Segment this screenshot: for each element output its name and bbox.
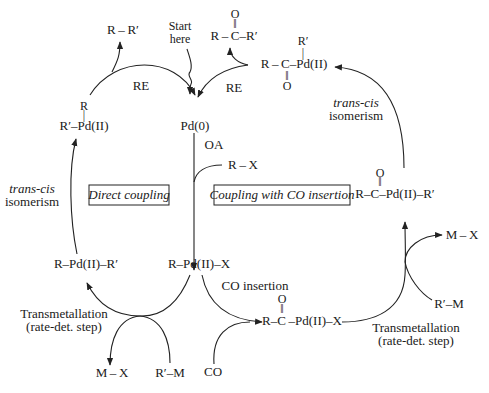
transmetallation-left-label-2: (rate-det. step) — [26, 319, 102, 334]
acyl-pd-cis-o: O — [283, 79, 292, 93]
product-r-r-prime: R – R′ — [107, 22, 139, 37]
catalytic-cycle-diagram: Start here R – R′ O ‖ R – C–R′ R′ | R – … — [0, 0, 489, 393]
co-reagent: CO — [204, 364, 222, 379]
m-x-right-out — [405, 235, 442, 262]
re-right-label: RE — [226, 80, 243, 95]
r-pd-x: R–Pd(II)–X — [168, 256, 231, 271]
start-here-arrow — [187, 49, 192, 94]
pd0: Pd(0) — [181, 118, 210, 133]
m-x-right: M – X — [446, 227, 479, 242]
re-left-product-branch — [112, 42, 120, 72]
acyl-pd-cis-main: R – C–Pd(II) — [261, 56, 328, 71]
m-x-left: M – X — [96, 365, 129, 380]
co-coupling-label: Coupling with CO insertion — [210, 187, 355, 202]
acyl-pd-x-main: R–C –Pd(II)–X — [262, 313, 342, 328]
ketone-product: R – C–R′ — [210, 28, 257, 43]
transmetallation-right-label-2: (rate-det. step) — [378, 333, 454, 348]
oa-label: OA — [205, 137, 224, 152]
re-right-product-branch — [230, 48, 248, 65]
transmetallation-right-arc — [342, 222, 405, 322]
start-here-label-2: here — [170, 32, 191, 46]
start-here-label: Start — [169, 19, 192, 33]
trans-cis-right-label-2: isomerism — [329, 108, 383, 123]
acyl-pd-trans-main: R–C–Pd(II)–R′ — [355, 186, 435, 201]
r-x-join — [194, 165, 222, 182]
trans-cis-left-arrow — [71, 139, 77, 254]
r-x-reagent: R – X — [228, 157, 258, 172]
direct-coupling-label: Direct coupling — [87, 187, 170, 202]
r-pd-rprime-trans: R–Pd(II)–R′ — [54, 256, 118, 271]
trans-cis-left-label-2: isomerism — [5, 194, 59, 209]
rprime-m-left: R′–M — [155, 365, 185, 380]
rprime-m-right: R′–M — [434, 296, 464, 311]
m-x-left-out — [110, 316, 140, 365]
co-insertion-label: CO insertion — [222, 278, 289, 293]
co-in — [214, 322, 250, 364]
r-pd-cis-main: R′–Pd(II) — [59, 118, 108, 133]
re-left-label: RE — [133, 78, 150, 93]
rprime-m-left-in — [140, 316, 170, 363]
rprime-m-right-in — [405, 262, 432, 300]
